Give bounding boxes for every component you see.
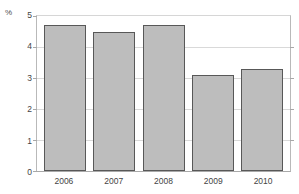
bar-slot (40, 16, 89, 171)
bar-slot (89, 16, 138, 171)
y-tick-label: 4 (4, 42, 32, 50)
bar-2006[interactable] (44, 25, 86, 171)
x-tick-label-2008: 2008 (139, 176, 189, 186)
x-tick-label-2006: 2006 (39, 176, 89, 186)
y-axis-tick-right (290, 109, 294, 110)
bar-2008[interactable] (143, 25, 185, 171)
y-axis-tick (33, 171, 37, 172)
y-axis-tick (33, 109, 37, 110)
y-axis-tick-right (290, 140, 294, 141)
x-tick-label-2010: 2010 (238, 176, 288, 186)
y-tick-label: 5 (4, 11, 32, 19)
bar-2007[interactable] (93, 32, 135, 172)
y-tick-label: 0 (4, 168, 32, 176)
bar-slot (188, 16, 237, 171)
y-axis-tick (33, 140, 37, 141)
x-tick-label-2009: 2009 (188, 176, 238, 186)
bars-layer (37, 16, 290, 171)
y-tick-label: 1 (4, 137, 32, 145)
bar-2009[interactable] (192, 75, 234, 171)
bar-2010[interactable] (241, 69, 283, 171)
y-axis-tick-labels: 5 4 3 2 1 0 (0, 15, 32, 172)
bar-slot (238, 16, 287, 171)
x-tick-label-2007: 2007 (89, 176, 139, 186)
y-axis-tick (33, 16, 37, 17)
x-axis-tick-labels: 2006 2007 2008 2009 2010 (36, 176, 291, 186)
bar-chart: % 5 4 3 2 1 0 (0, 0, 299, 194)
y-axis-tick-right (290, 47, 294, 48)
y-tick-label: 3 (4, 74, 32, 82)
plot-area (36, 15, 291, 172)
bar-slot (139, 16, 188, 171)
y-axis-tick (33, 78, 37, 79)
y-axis-tick-right (290, 78, 294, 79)
y-axis-tick (33, 47, 37, 48)
y-tick-label: 2 (4, 105, 32, 113)
